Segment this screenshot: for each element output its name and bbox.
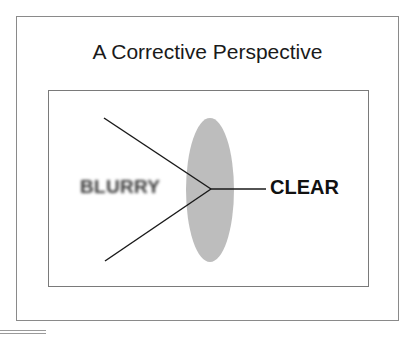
lens-diagram — [0, 0, 415, 338]
clear-label: CLEAR — [270, 176, 339, 199]
footer-rule-top — [0, 330, 46, 331]
blurry-label: BLURRY — [80, 176, 160, 198]
footer-rule-bottom — [0, 333, 46, 334]
